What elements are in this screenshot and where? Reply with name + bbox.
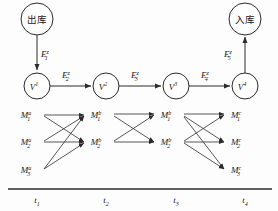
m-label-t4-3: Mc3 bbox=[230, 165, 242, 178]
time-tick-t3: t3 bbox=[173, 195, 179, 207]
m-label-t3-2: Mb2 bbox=[160, 137, 172, 150]
m-label-t1-2: Ma2 bbox=[20, 137, 32, 150]
link-m3a-m2b bbox=[44, 143, 84, 169]
link-t2m1-t3m2 bbox=[114, 116, 154, 142]
edge-label-e2: Ez2 bbox=[61, 70, 71, 83]
figure-canvas: 出库 入库 V1 V2 V3 V4 Ez1 Ez2 Ez3 Ez4 Ez5 bbox=[0, 0, 278, 211]
edge-label-e5: Ez5 bbox=[223, 49, 233, 62]
m-label-t1-1: Ma1 bbox=[20, 110, 32, 123]
link-t2m2-t3m1 bbox=[114, 115, 154, 141]
edge-label-e3: Ez3 bbox=[130, 70, 140, 83]
link-t3m2-t4m3 bbox=[184, 143, 224, 169]
link-t3m2-t4m1 bbox=[184, 115, 224, 141]
m-label-t2-1: Mb1 bbox=[90, 110, 102, 123]
terminal-label-inbound: 入库 bbox=[235, 14, 255, 25]
terminal-label-outbound: 出库 bbox=[27, 14, 47, 25]
m-label-t1-3: Ma3 bbox=[20, 165, 32, 178]
link-m3a-m1b bbox=[44, 116, 84, 169]
m-label-t4-1: Mc1 bbox=[230, 110, 242, 123]
edge-label-e4: Ez4 bbox=[200, 70, 210, 83]
time-tick-t2: t2 bbox=[103, 195, 109, 207]
link-t3m1-t4m3 bbox=[184, 117, 224, 169]
time-tick-t4: t4 bbox=[242, 195, 248, 207]
link-t3m1-t4m2 bbox=[184, 116, 224, 142]
edge-label-e1: Ez1 bbox=[40, 49, 50, 62]
process-flow-diagram: 出库 入库 V1 V2 V3 V4 Ez1 Ez2 Ez3 Ez4 Ez5 bbox=[0, 0, 278, 211]
m-label-t4-2: Mc2 bbox=[230, 137, 242, 150]
m-label-t3-1: Mb1 bbox=[160, 110, 172, 123]
time-tick-t1: t1 bbox=[34, 195, 40, 207]
m-label-t2-2: Mb2 bbox=[90, 137, 102, 150]
